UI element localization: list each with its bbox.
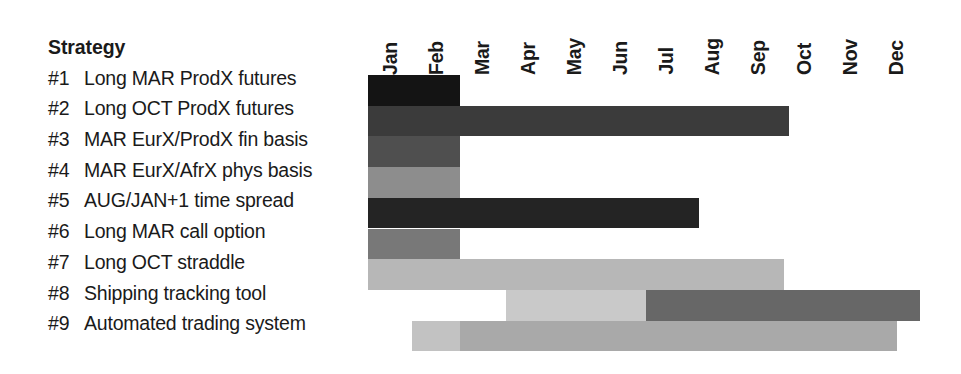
month-header-mar: Mar	[460, 0, 506, 75]
month-header-nov: Nov	[828, 0, 874, 75]
month-label: Jan	[381, 42, 401, 75]
gantt-bar-row8-seg1[interactable]	[506, 290, 646, 321]
row-name: AUG/JAN+1 time spread	[84, 185, 294, 216]
month-label: May	[565, 38, 585, 75]
list-item: #6 Long MAR call option	[48, 216, 360, 247]
strategy-label-column: Strategy #1 Long MAR ProdX futures #2 Lo…	[48, 32, 360, 339]
gantt-row	[368, 229, 920, 260]
month-header-apr: Apr	[506, 0, 552, 75]
row-id: #7	[48, 247, 84, 278]
gantt-bar-row3-seg1[interactable]	[368, 136, 460, 167]
month-label: Jun	[611, 41, 631, 75]
month-header-jun: Jun	[598, 0, 644, 75]
row-id: #8	[48, 278, 84, 309]
month-label: Feb	[427, 41, 447, 75]
month-header-may: May	[552, 0, 598, 75]
list-item: #5 AUG/JAN+1 time spread	[48, 185, 360, 216]
month-header-feb: Feb	[414, 0, 460, 75]
gantt-chart: Strategy #1 Long MAR ProdX futures #2 Lo…	[0, 0, 961, 374]
column-header-strategy: Strategy	[48, 32, 360, 63]
row-name: Long MAR call option	[84, 216, 265, 247]
gantt-bar-row4-seg1[interactable]	[368, 167, 460, 198]
list-item: #9 Automated trading system	[48, 308, 360, 339]
gantt-bar-row9-seg1[interactable]	[412, 321, 460, 352]
month-axis-header: JanFebMarAprMayJunJulAugSepOctNovDec	[368, 0, 920, 75]
gantt-row	[368, 321, 920, 352]
row-id: #6	[48, 216, 84, 247]
gantt-bar-row5-seg1[interactable]	[368, 198, 699, 229]
gantt-row	[368, 136, 920, 167]
month-header-sep: Sep	[736, 0, 782, 75]
row-name: Long OCT ProdX futures	[84, 93, 294, 124]
gantt-row	[368, 106, 920, 137]
row-id: #4	[48, 155, 84, 186]
gantt-row	[368, 259, 920, 290]
row-id: #1	[48, 63, 84, 94]
gantt-bar-row8-seg2[interactable]	[646, 290, 920, 321]
row-name: Long OCT straddle	[84, 247, 245, 278]
gantt-bar-row7-seg1[interactable]	[368, 259, 784, 290]
month-header-aug: Aug	[690, 0, 736, 75]
month-header-jul: Jul	[644, 0, 690, 75]
month-label: Dec	[887, 40, 907, 75]
month-label: Oct	[795, 43, 815, 75]
gantt-bar-row2-seg1[interactable]	[368, 106, 789, 137]
gantt-row	[368, 75, 920, 106]
row-id: #5	[48, 185, 84, 216]
month-label: Aug	[703, 38, 723, 75]
month-label: Jul	[657, 47, 677, 75]
list-item: #1 Long MAR ProdX futures	[48, 63, 360, 94]
row-id: #3	[48, 124, 84, 155]
row-name: Long MAR ProdX futures	[84, 63, 296, 94]
row-id: #2	[48, 93, 84, 124]
gantt-plot-area	[368, 75, 920, 367]
gantt-bar-row1-seg1[interactable]	[368, 75, 460, 106]
row-name: MAR EurX/ProdX fin basis	[84, 124, 308, 155]
gantt-row	[368, 290, 920, 321]
month-label: Sep	[749, 40, 769, 75]
month-label: Apr	[519, 42, 539, 75]
row-name: MAR EurX/AfrX phys basis	[84, 155, 312, 186]
gantt-bar-row6-seg1[interactable]	[368, 229, 460, 260]
list-item: #8 Shipping tracking tool	[48, 278, 360, 309]
list-item: #4 MAR EurX/AfrX phys basis	[48, 155, 360, 186]
row-id: #9	[48, 308, 84, 339]
list-item: #2 Long OCT ProdX futures	[48, 93, 360, 124]
gantt-row	[368, 167, 920, 198]
month-header-jan: Jan	[368, 0, 414, 75]
list-item: #7 Long OCT straddle	[48, 247, 360, 278]
gantt-bar-row9-seg2[interactable]	[460, 321, 897, 352]
month-label: Mar	[473, 41, 493, 75]
month-header-dec: Dec	[874, 0, 920, 75]
month-header-oct: Oct	[782, 0, 828, 75]
row-name: Automated trading system	[84, 308, 306, 339]
month-label: Nov	[841, 39, 861, 75]
row-name: Shipping tracking tool	[84, 278, 266, 309]
gantt-row	[368, 198, 920, 229]
list-item: #3 MAR EurX/ProdX fin basis	[48, 124, 360, 155]
